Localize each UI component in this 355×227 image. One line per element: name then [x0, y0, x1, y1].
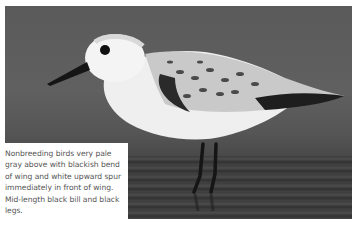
caption-box: Nonbreeding birds very pale gray above w… — [0, 143, 128, 219]
caption-text: Nonbreeding birds very pale gray above w… — [5, 148, 128, 216]
